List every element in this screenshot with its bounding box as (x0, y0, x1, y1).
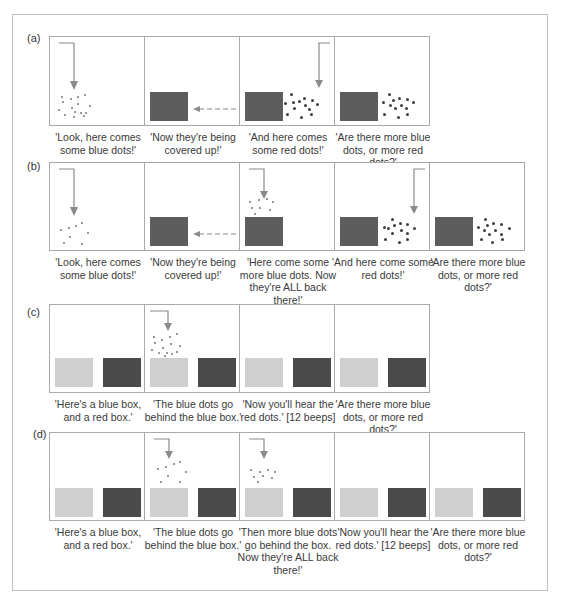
occluder-box (340, 217, 378, 246)
row-label-a: (a) (27, 32, 40, 44)
panel-b2: 'Now they're being covered up!' (144, 162, 240, 251)
caption-d3: 'Then more blue dots go behind the box. … (236, 526, 340, 576)
blue-box (340, 488, 378, 517)
caption-d2: 'The blue dots go behind the blue box.' (141, 526, 245, 551)
caption-d4: 'Now you'll hear the red dots.' [12 beep… (331, 526, 435, 551)
red-box (103, 358, 141, 387)
red-box (293, 488, 331, 517)
caption-a2: 'Now they're being covered up!' (141, 131, 245, 156)
blue-box (340, 358, 378, 387)
row-c: 'Here's a blue box, and a red box.' 'The… (49, 304, 430, 393)
caption-c2: 'The blue dots go behind the blue box.' (141, 398, 245, 423)
red-box (388, 488, 426, 517)
occluder-box (245, 92, 283, 121)
panel-a1: 'Look, here comes some blue dots!' (49, 36, 145, 126)
panel-c1: 'Here's a blue box, and a red box.' (49, 304, 145, 393)
panel-a3: 'And here comes some red dots!' (239, 36, 335, 126)
blue-box (150, 488, 188, 517)
panel-d2: 'The blue dots go behind the blue box.' (144, 432, 240, 521)
row-label-c: (c) (27, 306, 40, 318)
down-arrow-icon (249, 439, 279, 463)
caption-b5: 'Are there more blue dots, or more red d… (426, 256, 530, 294)
down-arrow-icon (249, 169, 279, 203)
panel-a4: 'Are there more blue dots, or more red d… (334, 36, 430, 126)
panel-b5: 'Are there more blue dots, or more red d… (429, 162, 525, 251)
panel-d5: 'Are there more blue dots, or more red d… (429, 432, 525, 521)
panel-c2: 'The blue dots go behind the blue box.' (144, 304, 240, 393)
caption-b4: 'And here come some red dots!' (331, 256, 435, 281)
caption-d5: 'Are there more blue dots, or more red d… (426, 526, 530, 564)
occluder-box (245, 217, 283, 246)
row-label-b: (b) (27, 160, 40, 172)
panel-b3: 'Here come some more blue dots. Now they… (239, 162, 335, 251)
panel-a2: 'Now they're being covered up!' (144, 36, 240, 126)
panel-c3: 'Now you'll hear the red dots.' [12 beep… (239, 304, 335, 393)
panel-d1: 'Here's a blue box, and a red box.' (49, 432, 145, 521)
caption-a1: 'Look, here comes some blue dots!' (46, 131, 150, 156)
down-arrow-icon (150, 311, 180, 335)
caption-c1: 'Here's a blue box, and a red box.' (46, 398, 150, 423)
panel-d3: 'Then more blue dots go behind the box. … (239, 432, 335, 521)
red-box (293, 358, 331, 387)
panel-c4: 'Are there more blue dots, or more red d… (334, 304, 430, 393)
caption-b1: 'Look, here comes some blue dots!' (46, 256, 150, 281)
down-arrow-icon (300, 43, 330, 93)
red-box (483, 488, 521, 517)
caption-c4: 'Are there more blue dots, or more red d… (331, 398, 435, 436)
down-arrow-icon (395, 169, 425, 219)
blue-box (150, 358, 188, 387)
red-box (198, 488, 236, 517)
panel-b4: 'And here come some red dots!' (334, 162, 430, 251)
caption-b3: 'Here come some more blue dots. Now they… (236, 256, 340, 306)
occluder-box (435, 217, 473, 246)
panel-d4: 'Now you'll hear the red dots.' [12 beep… (334, 432, 430, 521)
row-label-d: (d) (33, 428, 46, 440)
down-arrow-icon (59, 43, 89, 93)
down-arrow-icon (59, 169, 89, 219)
occluder-box (340, 92, 378, 121)
occluder-box (150, 217, 188, 246)
caption-a3: 'And here comes some red dots!' (236, 131, 340, 156)
red-box (198, 358, 236, 387)
dashed-left-arrow-icon (193, 105, 238, 113)
red-box (388, 358, 426, 387)
panel-b1: 'Look, here comes some blue dots!' (49, 162, 145, 251)
red-box (103, 488, 141, 517)
blue-box (55, 358, 93, 387)
row-b: 'Look, here comes some blue dots!' 'Now … (49, 162, 525, 251)
down-arrow-icon (154, 439, 184, 463)
blue-box (435, 488, 473, 517)
caption-d1: 'Here's a blue box, and a red box.' (46, 526, 150, 551)
dashed-left-arrow-icon (193, 230, 238, 238)
row-a: 'Look, here comes some blue dots!' 'Now … (49, 36, 430, 126)
caption-b2: 'Now they're being covered up!' (141, 256, 245, 281)
row-d: 'Here's a blue box, and a red box.' 'The… (49, 432, 525, 521)
blue-box (245, 488, 283, 517)
occluder-box (150, 92, 188, 121)
blue-box (245, 358, 283, 387)
blue-box (55, 488, 93, 517)
caption-c3: 'Now you'll hear the red dots.' [12 beep… (236, 398, 340, 423)
